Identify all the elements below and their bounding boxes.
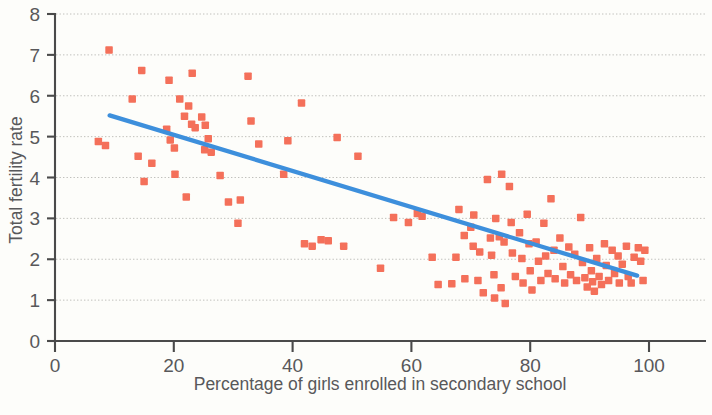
y-axis-title: Total fertility rate [6, 116, 26, 243]
gridlines [56, 14, 706, 300]
data-point [188, 70, 196, 78]
x-axis-title: Percentage of girls enrolled in secondar… [194, 374, 567, 394]
data-point [497, 284, 505, 292]
data-point [565, 243, 573, 251]
x-tick-label-0: 0 [50, 355, 61, 376]
data-point [216, 172, 224, 180]
data-point [138, 67, 146, 75]
data-point [601, 240, 609, 248]
data-point [166, 136, 174, 144]
x-tick-label-80: 80 [520, 355, 541, 376]
data-point [205, 135, 213, 143]
data-point [247, 117, 255, 125]
data-point [488, 251, 496, 259]
data-point [518, 255, 526, 263]
data-point [547, 195, 555, 203]
data-point [244, 72, 252, 80]
data-point [502, 300, 510, 308]
data-point [630, 253, 638, 260]
data-point [491, 294, 499, 302]
data-point [455, 206, 463, 214]
data-point [605, 277, 613, 285]
data-point [354, 152, 362, 160]
y-tick-label-0: 0 [29, 331, 40, 352]
data-point [487, 234, 495, 242]
data-point [452, 253, 460, 260]
y-tick-label-3: 3 [29, 208, 40, 229]
data-point [500, 238, 508, 246]
data-point [148, 159, 156, 167]
data-point [542, 252, 550, 259]
data-point [589, 278, 597, 286]
data-point [448, 280, 456, 288]
data-point [428, 253, 436, 260]
data-point [207, 148, 215, 156]
x-tick-label-20: 20 [163, 355, 184, 376]
data-point [535, 258, 543, 266]
data-point [185, 102, 193, 110]
data-point [619, 260, 627, 268]
data-point [616, 279, 624, 287]
data-point [540, 220, 548, 228]
data-point [202, 121, 210, 128]
data-point [128, 95, 136, 103]
data-point [280, 170, 288, 178]
data-point [134, 152, 142, 160]
y-tick-label-1: 1 [29, 290, 40, 311]
y-tick-label-7: 7 [29, 45, 40, 66]
data-point [528, 286, 536, 294]
data-point [476, 248, 484, 256]
data-point [284, 137, 292, 145]
data-point [591, 287, 599, 295]
data-point [434, 281, 442, 289]
data-point [480, 289, 488, 297]
y-tick-label-6: 6 [29, 86, 40, 107]
data-point [317, 236, 325, 244]
data-point [581, 274, 589, 282]
x-tick-label-100: 100 [633, 355, 665, 376]
data-point [377, 264, 385, 272]
data-point [509, 249, 517, 257]
data-point [171, 170, 179, 178]
data-point [405, 219, 413, 227]
data-point [470, 211, 478, 219]
y-tick-label-4: 4 [29, 168, 40, 189]
data-point [176, 95, 184, 103]
data-point [627, 279, 635, 287]
x-axis: 020406080100 [50, 341, 706, 376]
data-point [492, 215, 500, 223]
data-point [474, 277, 482, 285]
data-point [526, 267, 534, 275]
data-point [635, 244, 643, 252]
data-point [191, 124, 199, 132]
x-tick-label-60: 60 [401, 355, 422, 376]
data-point [506, 183, 514, 191]
data-point [171, 144, 179, 152]
data-point [102, 142, 110, 150]
data-point [512, 273, 519, 281]
data-point [519, 279, 527, 287]
data-point [577, 214, 585, 222]
data-point [639, 277, 647, 285]
data-point [561, 279, 569, 287]
data-point [461, 275, 469, 283]
data-point [308, 242, 316, 250]
data-point [507, 219, 515, 227]
data-point [198, 113, 206, 121]
data-point [498, 170, 506, 178]
y-axis: 012345678 [29, 4, 55, 352]
data-point [523, 211, 531, 219]
data-point [537, 277, 545, 285]
data-point [559, 263, 567, 271]
data-point [588, 267, 596, 275]
y-tick-label-5: 5 [29, 127, 40, 148]
data-point [623, 242, 631, 250]
data-point [255, 140, 263, 148]
data-point [595, 273, 603, 281]
data-point [641, 247, 649, 255]
data-point [95, 138, 103, 146]
data-point [237, 196, 245, 204]
data-point [301, 240, 309, 248]
scatter-plot-figure: 012345678 020406080100 Percentage of gir… [0, 0, 712, 415]
data-point [105, 46, 113, 54]
